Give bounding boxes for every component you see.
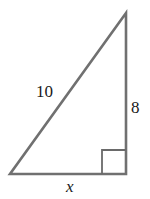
triangle-diagram: 10 8 x bbox=[0, 0, 150, 199]
right-triangle-figure bbox=[0, 0, 150, 199]
hypotenuse-label: 10 bbox=[36, 83, 53, 100]
base-label: x bbox=[66, 178, 74, 195]
right-angle-marker bbox=[102, 150, 126, 174]
vertical-leg-label: 8 bbox=[131, 99, 140, 116]
